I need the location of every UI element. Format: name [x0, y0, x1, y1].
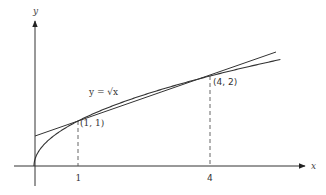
point-label-4-2: (4, 2)	[213, 77, 237, 87]
tick-label-1: 1	[76, 173, 82, 183]
point-label-1-1: (1, 1)	[80, 118, 104, 128]
x-axis-label: x	[311, 161, 316, 171]
tick-label-4: 4	[207, 173, 213, 183]
y-axis-label: y	[32, 6, 39, 16]
sqrt-secant-diagram: x y 1 4 y = √x (1, 1) (4, 2)	[0, 0, 326, 195]
secant-line	[35, 52, 276, 136]
curve-label: y = √x	[88, 87, 118, 97]
sqrt-curve-rendered	[34, 60, 280, 166]
